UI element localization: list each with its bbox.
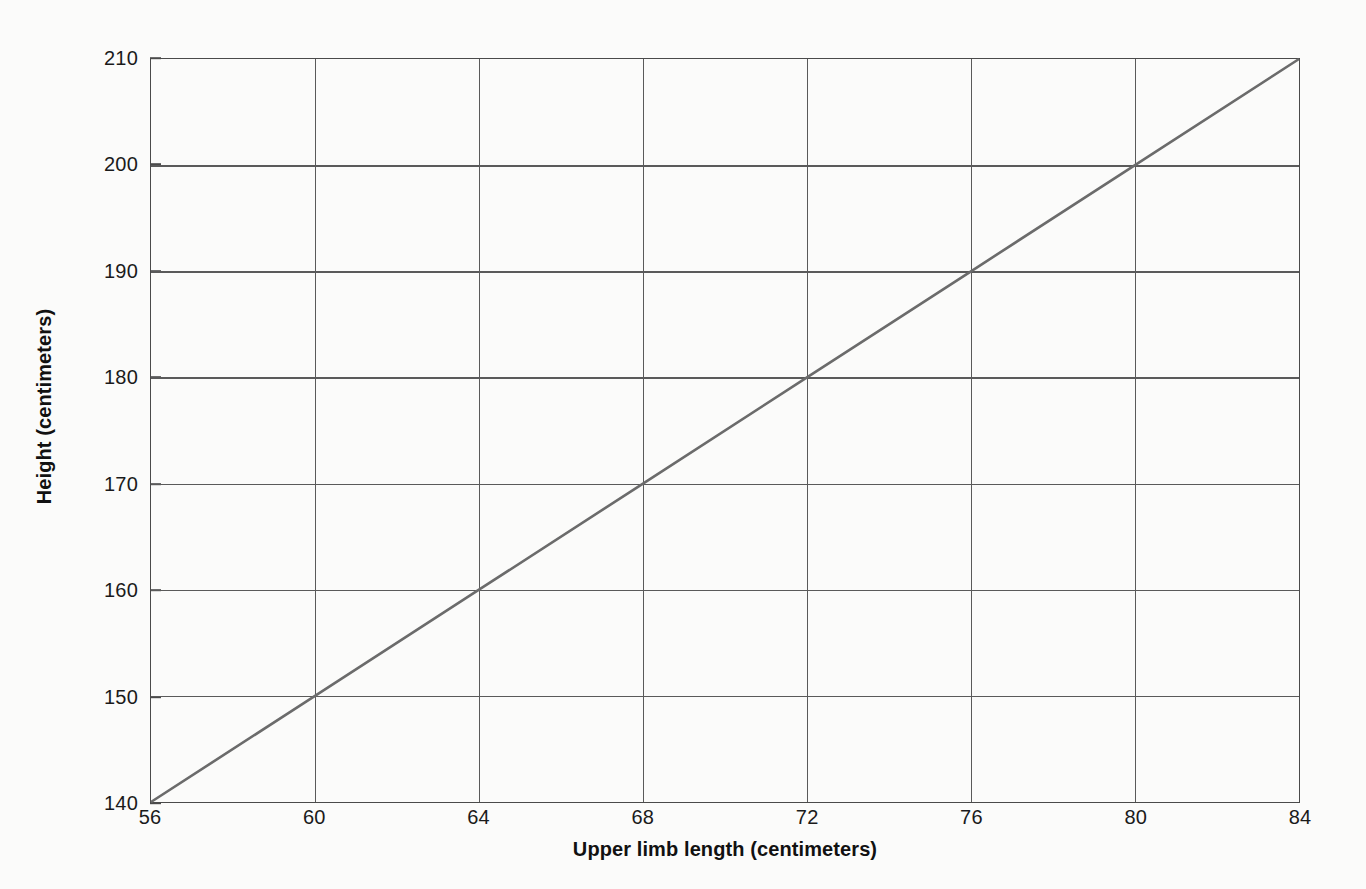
y-tick-label: 140 bbox=[104, 792, 138, 815]
x-tick-label: 64 bbox=[467, 806, 490, 829]
chart-figure: 210 200 190 180 170 160 150 140 56 60 bbox=[0, 0, 1366, 889]
y-tick-label: 150 bbox=[104, 685, 138, 708]
y-tick-label: 160 bbox=[104, 579, 138, 602]
x-tick-label: 80 bbox=[1124, 806, 1147, 829]
y-tick-label: 180 bbox=[104, 366, 138, 389]
y-axis-tick-labels: 210 200 190 180 170 160 150 140 bbox=[88, 58, 138, 803]
y-tick-label: 210 bbox=[104, 47, 138, 70]
x-tick-label: 60 bbox=[303, 806, 326, 829]
data-series-line bbox=[151, 59, 1299, 802]
y-tick-label: 200 bbox=[104, 153, 138, 176]
y-axis-title: Height (centimeters) bbox=[33, 277, 56, 537]
x-axis-tick-labels: 56 60 64 68 72 76 80 84 bbox=[150, 806, 1300, 840]
x-tick-label: 76 bbox=[960, 806, 983, 829]
x-tick-label: 68 bbox=[632, 806, 655, 829]
y-tick-label: 190 bbox=[104, 259, 138, 282]
x-tick-label: 84 bbox=[1289, 806, 1312, 829]
y-tick-label: 170 bbox=[104, 472, 138, 495]
x-axis-title: Upper limb length (centimeters) bbox=[150, 838, 1300, 861]
x-tick-label: 56 bbox=[139, 806, 162, 829]
x-tick-label: 72 bbox=[796, 806, 819, 829]
plot-area bbox=[150, 58, 1300, 803]
